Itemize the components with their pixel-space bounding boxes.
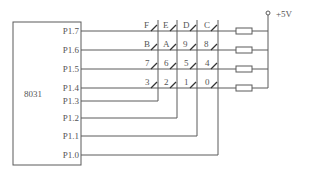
key-8: 8 — [204, 39, 209, 49]
pin-label-p17: P1.7 — [63, 26, 80, 36]
key-5: 5 — [184, 58, 189, 68]
resistor-icon — [236, 66, 252, 72]
key-7: 7 — [145, 58, 150, 68]
pin-label-p16: P1.6 — [63, 45, 80, 55]
key-1: 1 — [184, 77, 189, 87]
pin-label-p12: P1.2 — [63, 113, 79, 123]
pin-label-p14: P1.4 — [63, 83, 80, 93]
key-A: A — [163, 39, 170, 49]
key-4: 4 — [205, 58, 210, 68]
pin-label-p15: P1.5 — [63, 64, 80, 74]
key-0: 0 — [205, 77, 210, 87]
resistor-icon — [236, 85, 252, 91]
key-C: C — [204, 20, 210, 30]
row-wires — [81, 31, 268, 88]
vcc-label: +5V — [276, 9, 293, 19]
resistor-icon — [236, 28, 252, 34]
key-2: 2 — [164, 77, 169, 87]
key-F: F — [144, 20, 149, 30]
vcc-terminal-icon — [266, 11, 270, 15]
key-B: B — [144, 39, 150, 49]
chip-label: 8031 — [24, 89, 42, 99]
pin-label-p10: P1.0 — [63, 150, 80, 160]
pin-label-p13: P1.3 — [63, 96, 80, 106]
key-6: 6 — [164, 58, 169, 68]
pin-label-p11: P1.1 — [63, 131, 79, 141]
keypad-schematic: 8031 P1.7 P1.6 P1.5 P1.4 P1.3 P1.2 P1.1 … — [0, 0, 309, 179]
key-D: D — [183, 20, 190, 30]
pull-up-resistors — [236, 28, 252, 91]
key-9: 9 — [183, 39, 188, 49]
key-E: E — [163, 20, 169, 30]
key-3: 3 — [145, 77, 150, 87]
resistor-icon — [236, 47, 252, 53]
